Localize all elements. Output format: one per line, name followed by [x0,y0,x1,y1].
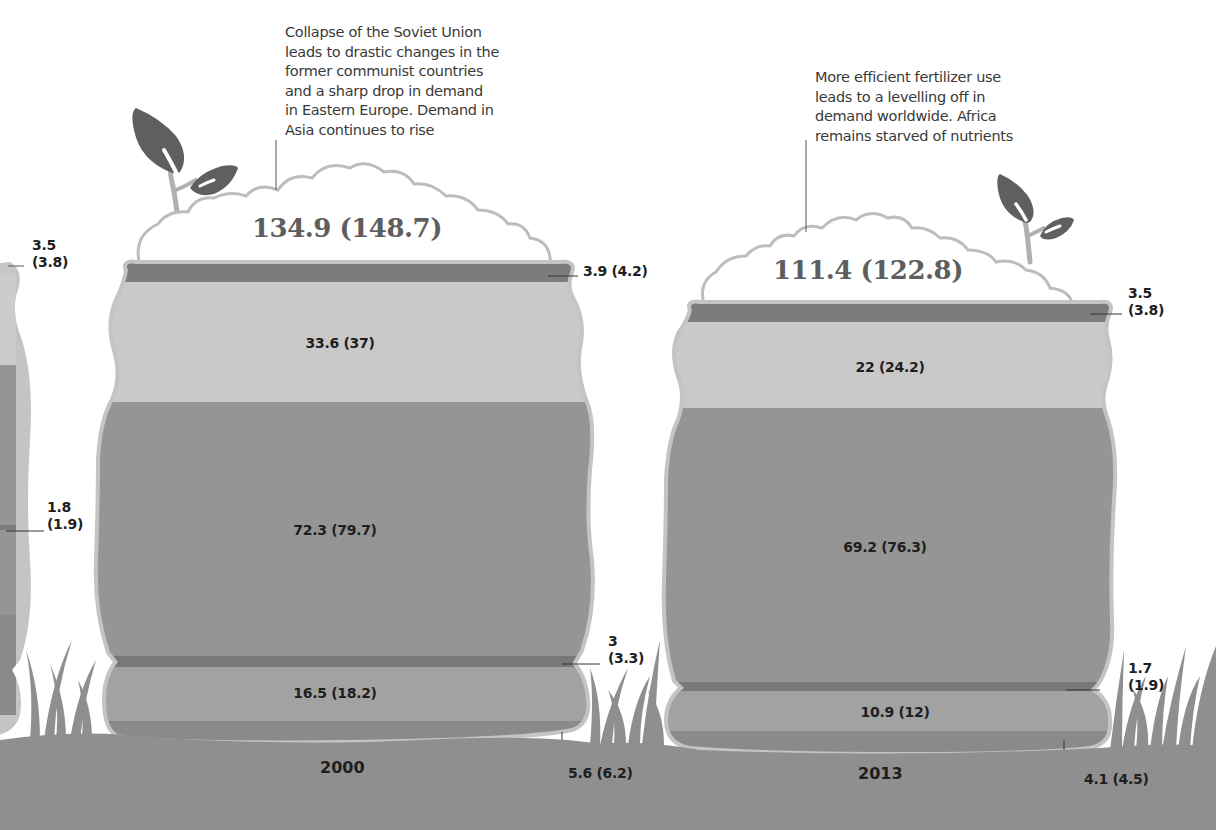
label-2013-top-thin: 3.5 (3.8) [1128,285,1164,319]
year-label-2013: 2013 [858,764,903,783]
annotation-line: leads to a levelling off in [815,88,1055,108]
label-2000-main: 72.3 (79.7) [270,522,400,539]
total-2000: 134.9 (148.7) [252,213,442,243]
label-2013-main: 69.2 (76.3) [820,539,950,556]
partial-sack-top-label: 3.5 (3.8) [32,237,68,271]
label-2000-upper: 33.6 (37) [280,335,400,352]
annotation-line: More efficient fertilizer use [815,68,1055,88]
band-2000-thin-lower [90,656,600,667]
label-2000-thin-lower: 3 (3.3) [608,633,644,667]
partial-sack-previous [0,255,44,755]
annotation-efficient-fertilizer: More efficient fertilizer use leads to a… [815,68,1055,146]
band-2000-top-thin [90,262,600,282]
label-2000-top-thin: 3.9 (4.2) [583,263,648,280]
label-2013-upper: 22 (24.2) [830,359,950,376]
label-2013-bottom: 4.1 (4.5) [1084,771,1149,788]
sack-2013 [660,140,1130,782]
sprout-icon [997,174,1074,262]
label-2000-bottom: 5.6 (6.2) [568,765,633,782]
annotation-line: in Eastern Europe. Demand in [285,101,535,121]
partial-sack-mid-label: 1.8 (1.9) [47,499,83,533]
label-2000-lower: 16.5 (18.2) [270,685,400,702]
annotation-line: leads to drastic changes in the [285,43,535,63]
annotation-line: remains starved of nutrients [815,127,1055,147]
band-2013-top-thin [660,302,1130,322]
annotation-line: former communist countries [285,62,535,82]
sack-2000 [90,108,600,776]
year-label-2000: 2000 [320,758,365,777]
annotation-line: Asia continues to rise [285,121,535,141]
band-2013-thin-lower [660,682,1130,691]
annotation-soviet-collapse: Collapse of the Soviet Union leads to dr… [285,23,535,140]
label-2013-thin-lower: 1.7 (1.9) [1128,660,1164,694]
annotation-line: demand worldwide. Africa [815,107,1055,127]
annotation-line: and a sharp drop in demand [285,82,535,102]
label-2013-lower: 10.9 (12) [840,704,950,721]
annotation-line: Collapse of the Soviet Union [285,23,535,43]
total-2013: 111.4 (122.8) [773,255,963,285]
